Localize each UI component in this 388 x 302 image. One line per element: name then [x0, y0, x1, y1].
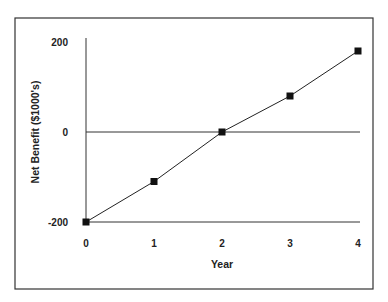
y-tick-labels: 2000-200	[48, 37, 68, 228]
y-tick-label: 0	[62, 127, 68, 138]
x-tick-labels: 01234	[83, 238, 361, 249]
y-tick-label: 200	[51, 37, 68, 48]
chart-frame	[15, 18, 373, 289]
data-point-marker	[287, 93, 294, 100]
x-axis-label: Year	[211, 258, 233, 270]
plot-area	[83, 38, 362, 226]
y-tick-label: -200	[48, 217, 68, 228]
x-tick-label: 3	[287, 238, 293, 249]
y-axis-label: Net Benefit ($1000's)	[29, 81, 41, 184]
net-benefit-chart: 2000-200 01234 Year Net Benefit ($1000's…	[0, 0, 388, 302]
x-tick-label: 2	[219, 238, 225, 249]
data-point-marker	[151, 178, 158, 185]
x-tick-label: 1	[151, 238, 157, 249]
series-line	[86, 51, 358, 222]
data-point-marker	[219, 129, 226, 136]
x-tick-label: 0	[83, 238, 89, 249]
data-point-marker	[83, 219, 90, 226]
x-tick-label: 4	[355, 238, 361, 249]
data-point-marker	[355, 48, 362, 55]
